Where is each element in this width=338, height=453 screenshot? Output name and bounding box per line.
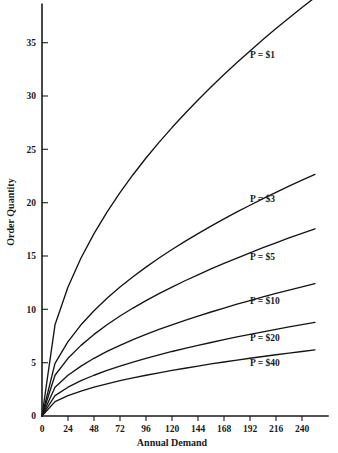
x-tick-label-9: 216 [269, 424, 284, 434]
y-tick-label-6: 30 [27, 91, 37, 101]
series-label-2: P = $5 [250, 252, 275, 262]
x-axis-tick-labels: 024487296120144168192216240 [40, 424, 310, 434]
x-axis-title: Annual Demand [137, 437, 208, 448]
y-tick-label-5: 25 [27, 145, 37, 155]
y-axis-title: Order Quantity [5, 178, 16, 245]
x-tick-label-1: 24 [63, 424, 73, 434]
y-tick-label-4: 20 [27, 198, 37, 208]
series-inline-labels: P = $1P = $3P = $5P = $10P = $20P = $40 [250, 50, 280, 368]
y-axis-tick-labels: 05101520253035 [27, 38, 37, 421]
y-tick-label-3: 15 [27, 251, 37, 261]
x-tick-label-6: 144 [191, 424, 206, 434]
x-tick-label-7: 168 [217, 424, 232, 434]
x-tick-label-10: 240 [295, 424, 310, 434]
chart-figure: 024487296120144168192216240 051015202530… [0, 0, 338, 453]
y-tick-label-1: 5 [31, 358, 36, 368]
series-label-0: P = $1 [250, 50, 275, 60]
y-tick-label-0: 0 [31, 411, 36, 421]
y-tick-label-7: 35 [27, 38, 37, 48]
chart-axes [42, 4, 328, 421]
series-label-3: P = $10 [250, 296, 280, 306]
series-label-5: P = $40 [250, 358, 280, 368]
x-tick-label-3: 72 [115, 424, 125, 434]
y-tick-label-2: 10 [27, 305, 37, 315]
series-label-1: P = $3 [250, 194, 275, 204]
x-tick-label-5: 120 [165, 424, 180, 434]
series-label-4: P = $20 [250, 333, 280, 343]
eoq-chart-svg: 024487296120144168192216240 051015202530… [0, 0, 338, 453]
x-tick-label-0: 0 [40, 424, 45, 434]
x-tick-label-2: 48 [89, 424, 99, 434]
x-tick-label-4: 96 [141, 424, 151, 434]
curve-series-0 [42, 0, 315, 416]
x-tick-label-8: 192 [243, 424, 258, 434]
chart-curves [42, 0, 315, 416]
